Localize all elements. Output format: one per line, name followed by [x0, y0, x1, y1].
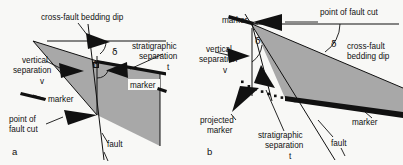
panel-a-label-dip-angle-lower: δ: [93, 60, 99, 70]
panel-a-arrow-cross-fault-bedding-dip: [86, 33, 110, 49]
panel-b-gray-band: [252, 24, 403, 115]
panel-b-arrow-stratigraphic-separation: [254, 65, 275, 88]
panel-a-label-point-of-fault-cut-line2: fault cut: [9, 125, 38, 134]
panel-b-label-cross-fault-bedding-dip-line1: cross-fault: [347, 42, 385, 51]
panel-b-label-point-of-fault-cut: point of fault cut: [320, 8, 379, 17]
panel-b-panel-label: b: [207, 146, 212, 157]
panel-a-arrow-point-of-fault-cut: [64, 110, 97, 125]
panel-b-label-vertical-separation-symbol: v: [223, 66, 228, 75]
panel-a-label-marker-lower: marker: [48, 95, 74, 104]
panel-b-label-vertical-separation-line1: vertical: [206, 45, 232, 54]
panel-b-label-dip-angle-upper: δ: [331, 39, 337, 49]
panel-b-label-vertical-separation-line2: separation: [199, 55, 238, 64]
panel-b-label-marker-lower: marker: [352, 118, 378, 127]
panel-a-label-vertical-separation-line2: separation: [13, 66, 52, 75]
panel-a: cross-fault bedding dip stratigraphic se…: [9, 13, 178, 161]
panel-a-label-cross-fault-bedding-dip: cross-fault bedding dip: [41, 13, 124, 22]
panel-a-leader-cross-fault-bedding-dip: [78, 23, 88, 36]
fault-separation-figure: cross-fault bedding dip stratigraphic se…: [0, 0, 403, 165]
panel-a-label-stratigraphic-separation-symbol: t: [167, 63, 170, 72]
panel-a-marker-lower-stub: [20, 92, 46, 101]
panel-a-leader-point-of-fault-cut: [46, 117, 63, 124]
panel-b-arrow-projected-marker: [232, 86, 259, 112]
panel-a-label-marker-upper: marker: [130, 81, 156, 90]
panel-a-label-point-of-fault-cut-line1: point of: [9, 115, 37, 124]
panel-b-leader-fault: [318, 120, 333, 137]
panel-b-label-marker-upper: marker: [222, 16, 248, 25]
panel-b-label-cross-fault-bedding-dip-line2: bedding dip: [347, 52, 390, 61]
panel-b-label-dip-angle-lower: δ: [255, 36, 261, 46]
panel-a-panel-label: a: [12, 146, 18, 157]
panel-b-dip-arc-lower: [252, 45, 262, 62]
panel-b-label-fault: fault: [331, 139, 347, 148]
panel-b-label-stratigraphic-separation-line2: separation: [265, 141, 304, 150]
panel-b-leader-fault-tail: [341, 148, 345, 156]
panel-a-label-vertical-separation-symbol: v: [40, 77, 45, 86]
panel-a-label-fault: fault: [107, 140, 123, 149]
panel-b-label-stratigraphic-separation-line1: stratigraphic: [258, 131, 303, 140]
panel-a-label-stratigraphic-separation-line1: stratigraphic: [132, 42, 177, 51]
panel-b: point of fault cut marker cross-fault be…: [199, 8, 403, 161]
panel-a-label-stratigraphic-separation-line2: separation: [139, 52, 178, 61]
panel-b-label-projected-marker-line2: marker: [207, 126, 233, 135]
panel-a-label-dip-angle-upper: δ: [112, 47, 118, 57]
panel-b-label-projected-marker-line1: projected: [200, 116, 234, 125]
panel-a-label-vertical-separation-line1: vertical: [22, 56, 48, 65]
panel-b-label-stratigraphic-separation-symbol: t: [289, 152, 292, 161]
panel-a-leader-fault-tail: [104, 152, 108, 161]
